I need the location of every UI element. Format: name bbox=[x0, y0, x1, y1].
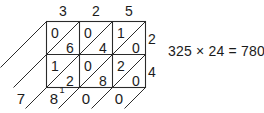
cell-r1c3-upper-digit: 1 bbox=[114, 26, 128, 40]
diagonal-extension-1 bbox=[14, 55, 47, 88]
top-label-col-1: 3 bbox=[46, 4, 80, 18]
right-label-row-1: 2 bbox=[148, 32, 162, 46]
cell-r1c3-lower-digit: 0 bbox=[129, 41, 143, 55]
result-digit-1: 7 bbox=[14, 91, 28, 106]
cell-r2c2-lower-digit: 8 bbox=[96, 74, 110, 88]
right-label-row-2: 4 bbox=[148, 65, 162, 79]
cell-r1c1-lower-digit: 6 bbox=[63, 41, 77, 55]
cell-r2c3-lower-digit: 0 bbox=[129, 74, 143, 88]
lattice-multiplication-figure: 3 2 5 2 4 0 6 0 4 1 0 1 2 0 8 2 0 7 8 1 … bbox=[0, 0, 264, 113]
diagonal-extension-2 bbox=[26, 88, 47, 109]
cell-r2c2-upper-digit: 0 bbox=[81, 59, 95, 73]
cell-r1c2-upper-digit: 0 bbox=[81, 26, 95, 40]
cell-r2c3-upper-digit: 2 bbox=[114, 59, 128, 73]
top-label-col-3: 5 bbox=[112, 4, 146, 18]
cell-r1c1-upper-digit: 0 bbox=[48, 26, 62, 40]
equation-label: 325 × 24 = 7800 bbox=[168, 43, 264, 59]
result-digit-4: 0 bbox=[112, 91, 126, 106]
cell-r2c1-upper-digit: 1 bbox=[48, 59, 62, 73]
top-label-col-2: 2 bbox=[79, 4, 113, 18]
result-digit-3: 0 bbox=[79, 91, 93, 106]
carry-mark-1: 1 bbox=[58, 86, 66, 95]
diagonal-extension-4 bbox=[92, 88, 113, 109]
diagonal-extension-0 bbox=[1, 22, 47, 68]
diagonal-extension-5 bbox=[125, 88, 146, 109]
cell-r1c2-lower-digit: 4 bbox=[96, 41, 110, 55]
